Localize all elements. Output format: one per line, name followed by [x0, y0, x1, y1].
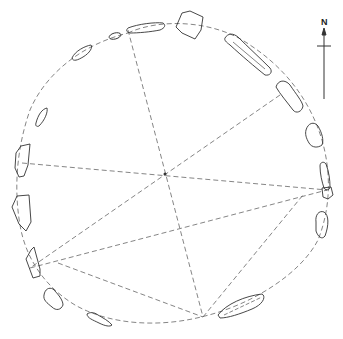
center-point	[164, 173, 167, 176]
stone-small-oval	[108, 32, 121, 41]
circle-outline	[17, 24, 329, 324]
alignment-line-sw-s	[58, 263, 203, 317]
stone-east-base	[322, 187, 333, 199]
stone-northeast	[276, 81, 303, 112]
north-arrow	[317, 28, 331, 99]
stone-northwest	[72, 45, 92, 60]
stone-south-low	[87, 313, 112, 326]
stone-west-southwest	[12, 195, 31, 231]
stone-west	[15, 144, 30, 177]
stone-north-northeast-crack	[233, 42, 265, 69]
alignment-line-w-e	[22, 163, 327, 190]
alignment-line-ne-sw	[30, 95, 280, 268]
stone-east-southeast	[316, 212, 328, 238]
alignment-line-s-e	[203, 195, 303, 317]
stone-west-northwest	[36, 108, 47, 126]
stone-east	[320, 162, 330, 190]
north-label: N	[321, 17, 328, 27]
stone-circle-diagram	[0, 0, 343, 339]
alignment-line-sw-e	[30, 190, 327, 268]
stone-south-southwest	[44, 288, 63, 309]
